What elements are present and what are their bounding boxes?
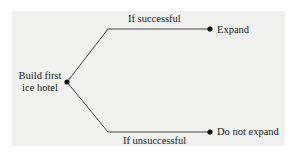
root-label-line1: Build first [14, 70, 66, 82]
root-label: Build first ice hotel [14, 70, 66, 94]
failure-condition-label: If unsuccessful [123, 135, 186, 147]
success-branch-line [67, 29, 210, 82]
do-not-expand-outcome-label: Do not expand [217, 126, 279, 138]
do-not-expand-node [207, 129, 212, 134]
root-label-line2: ice hotel [14, 82, 66, 94]
failure-branch-line [67, 82, 210, 132]
expand-outcome-label: Expand [217, 24, 249, 36]
success-condition-label: If successful [128, 13, 181, 25]
expand-node [207, 26, 212, 31]
